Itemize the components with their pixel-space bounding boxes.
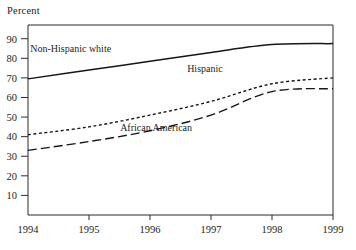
x-tick-label: 1997 [201, 224, 222, 235]
series-annotation-2: African American [120, 122, 192, 133]
y-tick-label: 20 [7, 171, 18, 182]
x-tick-group: 199419951996199719981999 [18, 215, 344, 235]
y-tick-label: 80 [7, 53, 18, 64]
plot-area: 102030405060708090 199419951996199719981… [0, 0, 356, 250]
y-tick-label: 30 [7, 151, 18, 162]
y-tick-label: 70 [7, 73, 18, 84]
y-tick-group: 102030405060708090 [7, 34, 29, 202]
y-tick-label: 90 [7, 34, 18, 45]
y-tick-label: 60 [7, 92, 18, 103]
series-group [28, 44, 333, 151]
y-tick-label: 50 [7, 112, 18, 123]
y-tick-label: 40 [7, 131, 18, 142]
x-tick-label: 1994 [18, 224, 40, 235]
x-tick-label: 1995 [79, 224, 100, 235]
y-tick-label: 10 [7, 190, 18, 201]
x-tick-label: 1998 [262, 224, 283, 235]
series-annotation-0: Non-Hispanic white [30, 43, 111, 54]
series-annotation-1: Hispanic [187, 63, 223, 74]
x-tick-label: 1999 [323, 224, 344, 235]
x-tick-label: 1996 [140, 224, 161, 235]
percent-line-chart: Percent 102030405060708090 1994199519961… [0, 0, 356, 250]
series-line-2 [28, 89, 333, 151]
